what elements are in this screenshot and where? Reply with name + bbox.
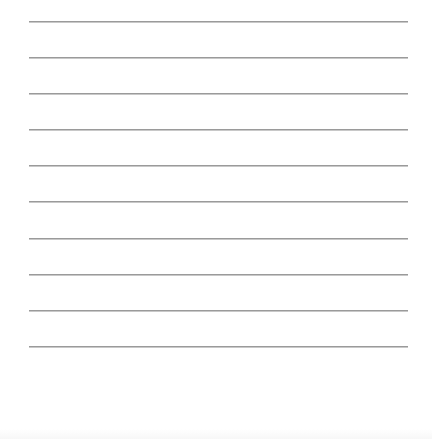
writing-line-3 xyxy=(29,93,408,95)
writing-line-1 xyxy=(29,21,408,23)
page-bottom-edge xyxy=(0,429,432,439)
writing-line-8 xyxy=(29,274,408,276)
writing-line-2 xyxy=(29,57,408,59)
writing-line-4 xyxy=(29,129,408,131)
lined-paper-page xyxy=(0,0,432,439)
writing-line-10 xyxy=(29,346,408,348)
writing-line-6 xyxy=(29,201,408,203)
writing-line-9 xyxy=(29,310,408,312)
writing-line-7 xyxy=(29,238,408,240)
writing-line-5 xyxy=(29,165,408,167)
